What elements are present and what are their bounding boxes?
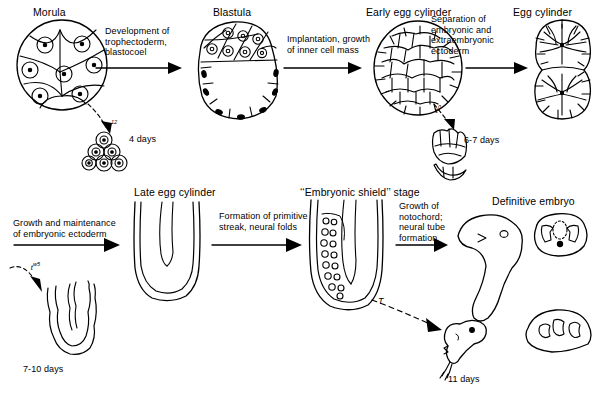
blastula-drawing xyxy=(198,22,278,119)
stage-title-egg-cylinder: Egg cylinder xyxy=(513,6,572,18)
transition-caption-2: Implantation, growth of inner cell mass xyxy=(287,34,370,55)
arrow-morula-to-blastula xyxy=(96,62,182,74)
transition-caption-3: Separation of embryonic and extraembryon… xyxy=(431,14,494,56)
genotype-label-T: T xyxy=(378,296,384,307)
arrow-early-to-egg-cylinder xyxy=(466,62,528,74)
genotype-exponent: 0 xyxy=(438,104,441,110)
diagram-canvas: Morula Development of trophectoderm, bla… xyxy=(0,0,592,395)
arrow-to-embryonic-shield xyxy=(212,238,302,252)
T-mutant-section-drawing xyxy=(526,310,591,352)
morula-drawing xyxy=(17,20,107,110)
T-mutant-embryo-drawing xyxy=(440,320,486,380)
arrow-blastula-to-early-egg-cylinder xyxy=(284,62,362,74)
egg-cylinder-drawing xyxy=(535,20,591,119)
day-label-11-days: 11 days xyxy=(448,374,480,385)
genotype-label-t12: t12 xyxy=(100,110,117,139)
t0-arrested-drawing xyxy=(433,129,467,180)
arrow-to-late-egg-cylinder xyxy=(14,238,120,252)
genotype-label-tw5: tw5 xyxy=(22,252,40,281)
stage-title-morula: Morula xyxy=(33,6,66,18)
day-label-4-days: 4 days xyxy=(129,134,156,145)
day-label-7-10-days: 7-10 days xyxy=(23,364,63,375)
transition-caption-6: Growth of notochord; neural tube formati… xyxy=(399,201,445,243)
genotype-label-t0: t0 xyxy=(427,95,441,124)
definitive-embryo-section-drawing xyxy=(535,214,588,256)
definitive-embryo-drawing xyxy=(458,215,522,321)
stage-title-late-egg-cylinder: Late egg cylinder xyxy=(134,186,216,198)
transition-caption-4: Growth and maintenance of embryonic ecto… xyxy=(13,218,116,239)
late-egg-cylinder-drawing xyxy=(134,202,200,301)
tw5-arrested-drawing xyxy=(47,281,96,354)
transition-caption-5: Formation of primitive streak, neural fo… xyxy=(219,211,308,232)
genotype-exponent: 12 xyxy=(111,119,117,125)
stage-title-blastula: Blastula xyxy=(213,6,251,18)
stage-title-definitive-embryo: Definitive embryo xyxy=(492,195,575,207)
day-label-6-7-days: 6-7 days xyxy=(464,135,499,146)
embryonic-shield-drawing xyxy=(310,200,384,310)
transition-caption-1: Development of trophectoderm, blastocoel xyxy=(105,26,169,58)
genotype-exponent: w5 xyxy=(33,261,40,267)
stage-title-embryonic-shield: ‘‘Embryonic shield’’ stage xyxy=(300,186,420,198)
